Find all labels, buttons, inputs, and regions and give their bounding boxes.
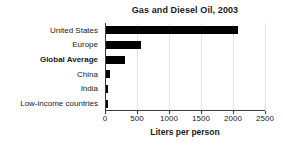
tick-label: 1500 (192, 114, 210, 123)
x-axis-ticks: 05001000150020002500 (105, 111, 265, 123)
tick-label: 1000 (160, 114, 178, 123)
bar (106, 56, 125, 64)
x-axis-title: Liters per person (105, 127, 265, 137)
bar (106, 70, 110, 78)
category-label: Europe (0, 38, 101, 53)
category-label: China (0, 67, 101, 82)
y-axis-category-labels: United StatesEuropeGlobal AverageChinaIn… (0, 23, 101, 111)
plot-area (105, 23, 265, 111)
tick-label: 0 (103, 114, 107, 123)
bars-layer (105, 23, 265, 111)
bar-row (106, 67, 266, 82)
bar (106, 85, 108, 93)
category-label: Low-income countries (0, 96, 101, 111)
bar (106, 26, 238, 34)
tick-label: 2500 (256, 114, 274, 123)
bar-row (106, 82, 266, 97)
category-label: United States (0, 23, 101, 38)
bar (106, 100, 108, 108)
chart-container: Gas and Diesel Oil, 2003 United StatesEu… (0, 0, 283, 152)
bar-row (106, 38, 266, 53)
tick-label: 500 (130, 114, 143, 123)
bar-row (106, 96, 266, 111)
bar-row (106, 23, 266, 38)
category-label: India (0, 82, 101, 97)
category-label: Global Average (0, 52, 101, 67)
tick-label: 2000 (224, 114, 242, 123)
bar-row (106, 52, 266, 67)
chart-title: Gas and Diesel Oil, 2003 (105, 5, 265, 15)
bar (106, 41, 141, 49)
y-axis-line (105, 23, 106, 111)
